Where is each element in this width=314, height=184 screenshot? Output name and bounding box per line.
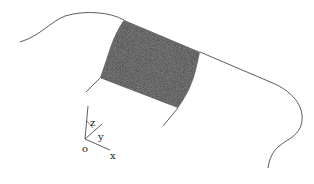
x-axis-label: x [110, 150, 116, 161]
z-axis-label: z [90, 117, 95, 128]
shaded-patch [100, 20, 200, 108]
diagram-svg: z y o x [0, 0, 314, 184]
diagram-canvas: z y o x [0, 0, 314, 184]
y-axis-label: y [97, 131, 104, 142]
patch-lower-left-line [86, 78, 100, 92]
surface-left-edge [20, 13, 124, 42]
z-axis [85, 106, 88, 139]
coordinate-axes: z y o x [82, 106, 116, 161]
surface-right-edge [200, 52, 302, 168]
origin-label: o [82, 143, 88, 154]
patch-lower-right-line [163, 108, 178, 126]
